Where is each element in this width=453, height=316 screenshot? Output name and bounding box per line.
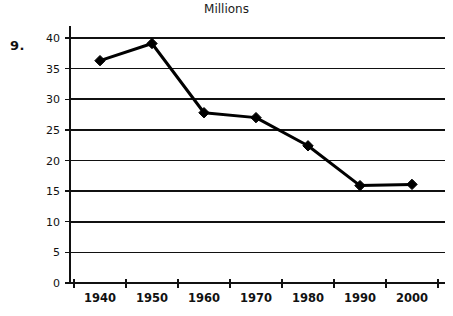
data-markers-group [95,38,417,191]
line-chart-plot: 0510152025303540 19401950196019701980199… [0,0,453,316]
y-tick-label-5: 5 [53,246,60,259]
y-tick-label-15: 15 [46,185,60,198]
x-tick-label-1970: 1970 [240,291,272,305]
x-tick-label-2000: 2000 [396,291,428,305]
data-point-1940 [95,55,105,65]
data-point-2000 [407,179,417,189]
y-tick-labels-group: 0510152025303540 [46,32,60,290]
y-tick-label-40: 40 [46,32,60,45]
x-tick-label-1950: 1950 [136,291,168,305]
y-tick-label-10: 10 [46,216,60,229]
y-axis-group [65,26,74,283]
y-tick-label-35: 35 [46,63,60,76]
chart-figure: 9. Millions 0510152025303540 19401950196… [0,0,453,316]
y-tick-label-25: 25 [46,124,60,137]
y-tick-label-30: 30 [46,93,60,106]
y-tick-label-20: 20 [46,155,60,168]
x-tick-label-1990: 1990 [344,291,376,305]
problem-number-label: 9. [10,38,25,53]
x-tick-label-1960: 1960 [188,291,220,305]
chart-title: Millions [0,2,453,16]
y-tick-label-0: 0 [53,277,60,290]
x-tick-labels-group: 1940195019601970198019902000 [84,291,428,305]
x-tick-label-1980: 1980 [292,291,324,305]
x-axis-group [70,279,445,288]
gridlines-group [70,38,445,252]
x-tick-label-1940: 1940 [84,291,116,305]
